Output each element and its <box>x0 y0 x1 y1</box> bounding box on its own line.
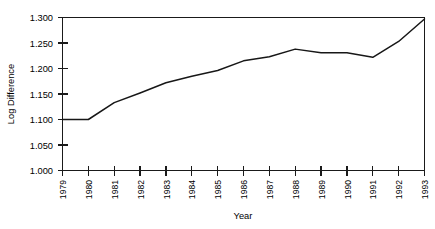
data-series-line <box>63 19 425 119</box>
y-tick-label: 1.050 <box>30 141 53 151</box>
x-tick-label: 1981 <box>110 180 120 199</box>
x-tick-label: 1985 <box>213 180 223 199</box>
x-tick-label: 1987 <box>265 180 275 199</box>
y-axis-tick-labels: 1.300 1.250 1.200 1.150 1.100 1.050 1.00… <box>30 13 53 176</box>
x-tick-label: 1989 <box>317 180 327 199</box>
x-tick-label: 1993 <box>420 180 430 199</box>
x-tick-label: 1990 <box>343 180 353 199</box>
y-tick-label: 1.300 <box>30 13 53 23</box>
x-tick-label: 1992 <box>394 180 404 199</box>
y-tick-label: 1.200 <box>30 64 53 74</box>
x-tick-label: 1988 <box>291 180 301 199</box>
plot-frame <box>63 18 425 171</box>
chart-container: 1.300 1.250 1.200 1.150 1.100 1.050 1.00… <box>0 0 435 229</box>
x-axis-tick-labels: 1979 1980 1981 1982 1983 1984 1985 1986 … <box>58 180 430 199</box>
y-tick-label: 1.000 <box>30 166 53 176</box>
x-tick-label: 1984 <box>187 180 197 199</box>
y-tick-label: 1.150 <box>30 90 53 100</box>
x-tick-label: 1982 <box>136 180 146 199</box>
y-tick-label: 1.100 <box>30 115 53 125</box>
x-tick-label: 1983 <box>162 180 172 199</box>
x-axis-title: Year <box>234 211 253 221</box>
y-tick-label: 1.250 <box>30 39 53 49</box>
y-axis-title: Log Difference <box>6 64 16 124</box>
x-tick-label: 1980 <box>84 180 94 199</box>
x-tick-label: 1979 <box>58 180 68 199</box>
x-tick-label: 1986 <box>239 180 249 199</box>
line-chart-figure: 1.300 1.250 1.200 1.150 1.100 1.050 1.00… <box>0 0 435 229</box>
x-tick-label: 1991 <box>368 180 378 199</box>
